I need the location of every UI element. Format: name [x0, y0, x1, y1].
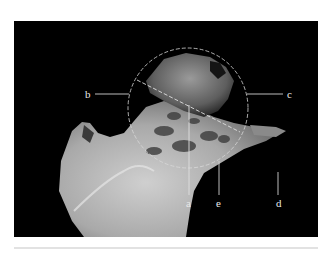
label-a: a — [186, 198, 191, 209]
label-b: b — [85, 89, 91, 100]
label-e: e — [216, 198, 221, 209]
femur-rendering — [14, 21, 318, 237]
label-d: d — [276, 198, 282, 209]
label-c: c — [287, 89, 292, 100]
divider-line — [14, 247, 318, 249]
image-panel — [14, 21, 318, 237]
femur-shaft — [59, 101, 276, 237]
